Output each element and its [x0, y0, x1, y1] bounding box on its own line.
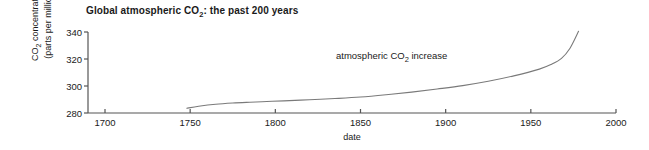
data-series-group	[187, 31, 579, 108]
co2-trend-line	[187, 31, 579, 108]
co2-chart-figure: Global atmospheric CO2: the past 200 yea…	[0, 0, 649, 150]
axes-group	[84, 32, 616, 113]
chart-plot-svg	[0, 0, 649, 150]
